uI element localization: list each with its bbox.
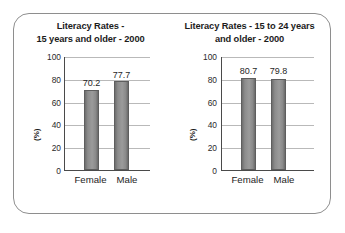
y-tick-label: 60 [35,99,61,107]
bar-female[interactable] [241,78,256,170]
x-tick-label-male: Male [274,174,295,185]
bar-slot-female: 80.7 [241,57,256,170]
plot-area-left: 70.2 77.7 [64,57,150,171]
chart-title-left: Literacy Rates - 15 years and older - 20… [13,20,168,45]
plot-area-right: 80.7 79.8 [221,57,314,171]
y-tick-label: 80 [35,76,61,84]
chart-area-left: (%) 100 80 60 40 20 0 [13,57,168,212]
figure-container: Literacy Rates - 15 years and older - 20… [0,0,345,233]
bar-male[interactable] [271,79,286,170]
y-tick-label: 80 [191,76,217,84]
chart-panel-right: Literacy Rates - 15 to 24 years and olde… [168,13,331,214]
bar-slot-female: 70.2 [84,57,99,170]
y-axis-ticks-left: 100 80 60 40 20 0 [35,57,61,171]
x-tick-label-female: Female [75,174,107,185]
bar-male[interactable] [114,81,129,170]
y-tick-label: 40 [35,121,61,129]
bar-value-male: 79.8 [270,67,288,76]
x-axis-labels-left: Female Male [64,174,150,190]
bar-group-right: 80.7 79.8 [222,57,314,170]
y-tick-label: 0 [35,167,61,175]
bar-value-female: 70.2 [83,79,101,88]
y-axis-ticks-right: 100 80 60 40 20 0 [191,57,217,171]
bar-slot-male: 77.7 [114,57,129,170]
chart-area-right: (%) 100 80 60 40 20 0 [168,57,331,212]
y-tick-label: 40 [191,121,217,129]
bar-group-left: 70.2 77.7 [65,57,150,170]
chart-title-right: Literacy Rates - 15 to 24 years and olde… [168,20,331,45]
chart-panel-left: Literacy Rates - 15 years and older - 20… [13,13,168,214]
chart-panels: Literacy Rates - 15 years and older - 20… [13,13,331,214]
y-tick-label: 100 [35,53,61,61]
y-tick-label: 20 [191,144,217,152]
bar-female[interactable] [84,90,99,170]
bar-value-female: 80.7 [240,67,258,76]
y-tick-label: 0 [191,167,217,175]
y-tick-label: 60 [191,99,217,107]
bar-slot-male: 79.8 [271,57,286,170]
y-tick-label: 20 [35,144,61,152]
x-tick-label-male: Male [117,174,138,185]
bar-value-male: 77.7 [113,71,131,80]
y-tick-label: 100 [191,53,217,61]
x-tick-label-female: Female [232,174,264,185]
x-axis-labels-right: Female Male [221,174,314,190]
